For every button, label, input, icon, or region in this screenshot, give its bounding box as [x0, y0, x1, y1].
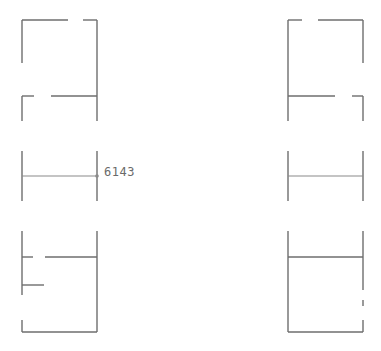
panel-middle-right: [288, 151, 363, 201]
dimension-label: 6143: [104, 165, 135, 179]
panel-middle-left: [22, 151, 99, 201]
panel-bottom-left: [22, 231, 97, 332]
panel-top-right: [288, 20, 363, 121]
figure-caption: [105, 345, 277, 351]
panel-bottom-right: [288, 231, 363, 332]
floor-plan-diagram: [0, 0, 381, 351]
panel-top-left: [22, 20, 97, 121]
dimension-point-marker: [95, 174, 99, 178]
